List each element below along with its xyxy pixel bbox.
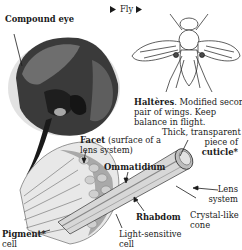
ommatidium-label: Ommatidium [104,163,165,172]
cone-line-1: Crystal-like [190,210,239,220]
crystal-cone-label: Crystal-like cone [190,210,239,230]
cuticle-label: Thick, transparent piece of cuticle* [162,127,238,157]
halteres-term: Haltères [134,97,174,107]
label-compound-eye-1: Compound eye [5,15,74,24]
light-line-2: cell [119,239,182,249]
facet-label: Facet (surface of a lens system) [80,135,161,155]
fly-label-text: Fly [120,4,133,14]
fly-drawing [132,14,240,92]
cone-line-2: cone [190,220,239,230]
halteres-desc-3: balance in flight. [134,117,242,127]
compound-eye-label: Compound eye [5,14,74,24]
facet-desc-1: (surface of a [105,135,161,145]
pigment-cell-label: Pigment* cell [2,229,46,249]
lens-system-label: Lens system [204,184,238,204]
cuticle-line-2: piece of [162,137,238,147]
pigment-term: Pigment* [2,229,46,239]
light-line-1: Light-sensitive [119,229,182,239]
fly-label: Fly [120,5,133,14]
light-sensitive-cell-label: Light-sensitive cell [119,229,182,249]
halteres-desc-2: pair of wings. Keep [134,107,242,117]
pigment-line-2: cell [2,239,46,249]
cuticle-term: cuticle* [162,147,238,157]
halteres-caption: Haltères. Modified second pair of wings.… [134,97,242,127]
fly-pointer-icon [136,6,142,13]
fly-arrow-icon [110,6,116,13]
rhabdom-label: Rhabdom [136,213,181,222]
facet-desc-2: lens system) [80,145,161,155]
halteres-desc-1: . Modified second [174,97,242,107]
lens-line-1: Lens [204,184,238,194]
ommatidium-text: Ommatidium [104,162,165,172]
facet-term: Facet [80,135,105,145]
lens-line-2: system [204,194,238,204]
cuticle-line-1: Thick, transparent [162,127,238,137]
rhabdom-text: Rhabdom [136,212,181,222]
